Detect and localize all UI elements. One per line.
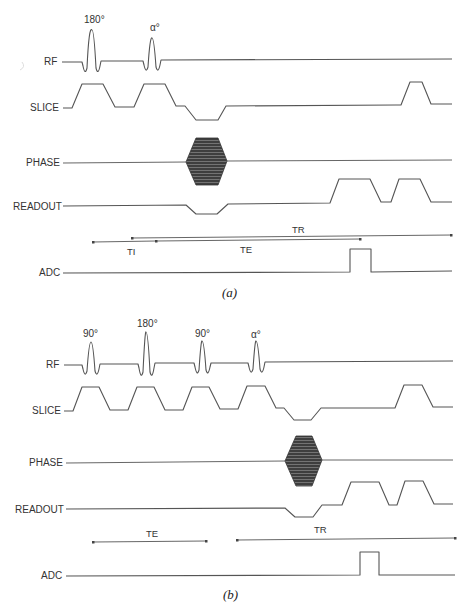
readout-row-a: READOUT [13,179,452,214]
pulse-label-90-second: 90° [195,328,210,339]
pulse-label-180: 180° [84,14,105,25]
te-arrow [93,541,206,542]
row-label-rf: RF [46,359,59,370]
row-label-readout: READOUT [13,201,62,212]
pulse-sequence-figure: RF 180° α° SLICE PHASE READOUT TR [0,0,467,613]
ti-label: TI [127,246,135,257]
adc-waveform [63,249,452,273]
phase-baseline [66,460,453,463]
tr-arrow [132,235,452,238]
rf-row-a: RF 180° α° [44,14,452,72]
timing-intervals-b: TE TR [92,524,457,544]
pulse-label-180: 180° [137,318,158,329]
adc-row-b: ADC [41,552,455,581]
te-label: TE [146,528,158,539]
slice-row-b: SLICE [32,385,453,420]
pulse-label-alpha: α° [251,329,261,340]
panel-caption-a: (a) [222,285,237,300]
tr-label: TR [314,524,327,535]
row-label-phase: PHASE [29,457,63,468]
slice-gradient-waveform [63,82,452,120]
row-label-adc: ADC [41,570,62,581]
ti-arrow [93,241,156,242]
row-label-slice: SLICE [32,405,61,416]
phase-encode-table [186,138,227,185]
row-label-readout: READOUT [15,504,64,515]
readout-gradient-waveform [66,481,453,517]
row-label-adc: ADC [39,267,60,278]
row-label-phase: PHASE [26,157,60,168]
readout-gradient-waveform [63,179,452,214]
phase-row-a: PHASE [26,138,452,185]
readout-row-b: READOUT [15,481,453,517]
rf-waveform [62,29,452,71]
slice-gradient-waveform [64,385,453,420]
scan-artifact [20,62,24,70]
panel-caption-b: (b) [223,587,238,602]
slice-row-a: SLICE [30,82,452,120]
te-arrow [156,239,361,241]
phase-encode-table [285,436,322,486]
pulse-label-alpha: α° [150,22,160,33]
adc-waveform [66,552,455,576]
te-label: TE [240,244,252,255]
row-label-slice: SLICE [30,102,59,113]
panel-a: RF 180° α° SLICE PHASE READOUT TR [13,14,453,300]
row-label-rf: RF [44,56,57,67]
tr-arrow [237,538,455,540]
phase-baseline [63,160,452,163]
tr-label: TR [292,224,305,235]
panel-b: RF 90° 180° 90° α° SLICE PHASE READOUT T… [15,318,457,602]
pulse-label-90-first: 90° [83,328,98,339]
phase-row-b: PHASE [29,436,453,486]
timing-intervals-a: TR TI TE [92,224,453,257]
rf-row-b: RF 90° 180° 90° α° [46,318,453,375]
